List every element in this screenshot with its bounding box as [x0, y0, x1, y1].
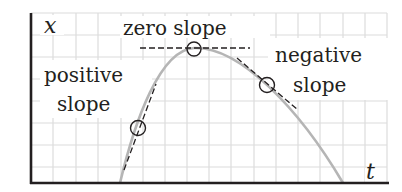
- zero-slope-label: zero slope: [123, 16, 227, 40]
- y-axis-label: x: [44, 13, 57, 38]
- negative-slope-label-line1: negative: [275, 43, 362, 67]
- x-axis-label: t: [366, 159, 375, 184]
- slope-diagram: x t zero slope positive slope negative s…: [0, 0, 402, 192]
- positive-slope-label-line1: positive: [44, 63, 123, 87]
- positive-slope-label-line2: slope: [57, 92, 110, 116]
- negative-slope-label-line2: slope: [293, 73, 346, 97]
